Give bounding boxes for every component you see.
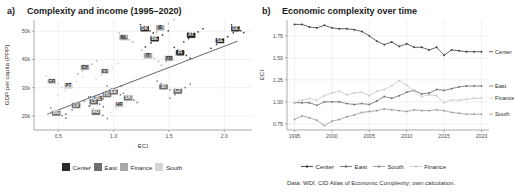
scatter-point [162, 34, 164, 36]
legend-line-marker-icon [340, 163, 352, 170]
y-tick-label: 30k [22, 85, 31, 91]
scatter-point [243, 32, 245, 34]
legend-line-marker-icon [301, 163, 313, 170]
series-marker [406, 91, 408, 93]
country-label: GR [48, 79, 56, 84]
scatter-point [90, 96, 92, 98]
legend-label: South [387, 163, 403, 170]
scatter-point [145, 46, 147, 48]
series-marker [451, 88, 453, 90]
y-axis-title: ECI [258, 70, 265, 81]
series-marker [316, 27, 318, 29]
panel-a-plot-area [34, 20, 252, 130]
series-marker [413, 46, 415, 48]
country-label: HR [116, 102, 123, 107]
scatter-point [57, 83, 59, 85]
panel-b-plot: CenterEastFinanceSouth199520002005201020… [257, 14, 514, 164]
scatter-point [216, 44, 218, 46]
scatter-point [167, 30, 169, 32]
scatter-point [227, 36, 229, 38]
scatter-point [133, 99, 135, 101]
scatter-point [117, 63, 119, 65]
x-tick-label: 1995 [289, 133, 301, 139]
scatter-point [61, 86, 63, 88]
panel-a-plot: DESEATFIDKBEFRITNLIECZSISKHUPLEELTLVHRRO… [0, 14, 257, 164]
series-marker [361, 111, 363, 113]
country-label: ES [102, 69, 108, 74]
series-marker [481, 51, 483, 53]
series-marker [481, 97, 483, 99]
scatter-point [77, 73, 79, 75]
series-marker [451, 99, 453, 101]
y-tick-label: 1.50 [273, 55, 283, 61]
scatter-point [101, 74, 103, 76]
series-marker [406, 111, 408, 113]
country-label: IE [158, 25, 162, 30]
legend-label: South [166, 164, 182, 171]
series-marker [376, 40, 378, 42]
x-axis-title: ECI [138, 142, 149, 149]
scatter-point [65, 113, 67, 115]
series-marker [368, 95, 370, 97]
scatter-point [106, 118, 108, 120]
y-tick-label: 1.00 [273, 99, 283, 105]
legend-item-east[interactable]: East [340, 163, 367, 170]
scatter-point [156, 80, 158, 82]
series-marker [308, 26, 310, 28]
series-marker [466, 113, 468, 115]
series-marker [376, 90, 378, 92]
scatter-point [71, 109, 73, 111]
scatter-point [167, 23, 169, 25]
series-marker [323, 125, 325, 127]
series-marker [383, 44, 385, 46]
series-marker [323, 95, 325, 97]
series-marker [443, 102, 445, 104]
legend-item-finance[interactable]: Finance [120, 163, 153, 171]
series-marker [481, 85, 483, 87]
country-label: DK [141, 26, 148, 31]
legend-label: Finance [424, 163, 446, 170]
country-label: SE [217, 38, 223, 43]
series-marker [458, 99, 460, 101]
series-marker [406, 43, 408, 45]
series-marker [451, 49, 453, 51]
legend-label: East [105, 164, 117, 171]
series-marker [391, 109, 393, 111]
scatter-point [61, 115, 63, 117]
series-marker [421, 96, 423, 98]
scatter-point [45, 75, 47, 77]
legend-item-south[interactable]: South [155, 163, 182, 171]
legend-item-east[interactable]: East [94, 163, 117, 171]
series-marker [421, 93, 423, 95]
series-marker [331, 92, 333, 94]
series-marker [346, 94, 348, 96]
legend-swatch-icon [120, 163, 128, 171]
country-label: CZ [175, 88, 181, 93]
series-marker [451, 111, 453, 113]
panel-b-legend: CenterEastSouthFinance [301, 163, 446, 170]
country-label: PT [65, 83, 71, 88]
series-marker [331, 27, 333, 29]
scatter-point [189, 83, 191, 85]
country-label: AT [188, 32, 194, 37]
scatter-point [118, 32, 120, 34]
scatter-point [188, 38, 190, 40]
legend-item-center[interactable]: Center [301, 163, 334, 170]
series-marker [361, 103, 363, 105]
country-label: DE [232, 26, 238, 31]
scatter-point [120, 85, 122, 87]
series-marker [406, 84, 408, 86]
series-marker [361, 30, 363, 32]
series-marker [383, 89, 385, 91]
legend-item-south[interactable]: South [373, 163, 404, 170]
series-marker [368, 104, 370, 106]
y-tick-label: 0.75 [273, 121, 283, 127]
scatter-point [84, 100, 86, 102]
scatter-point [152, 32, 154, 34]
legend-label: Center [316, 163, 335, 170]
series-marker [316, 119, 318, 121]
scatter-point [183, 41, 185, 43]
scatter-point [124, 97, 126, 99]
legend-item-center[interactable]: Center [62, 163, 91, 171]
legend-item-finance[interactable]: Finance [410, 163, 447, 170]
